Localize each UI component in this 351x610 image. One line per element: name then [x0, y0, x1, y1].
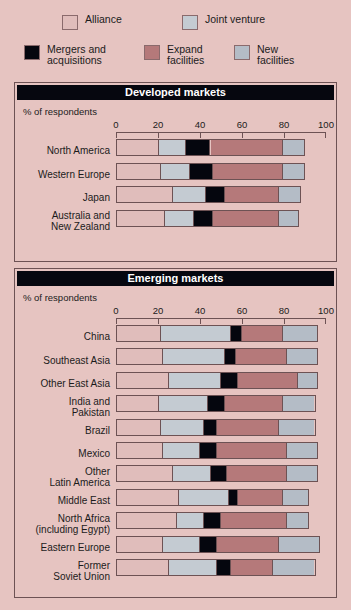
- bar-segment: [117, 349, 163, 364]
- bar-row: North Africa (including Egypt): [15, 512, 336, 535]
- bar-segment: [204, 420, 216, 435]
- bar-segment: [117, 490, 179, 505]
- panel-title-developed: Developed markets: [17, 85, 334, 100]
- bar-segment: [200, 443, 217, 458]
- stacked-bar: [116, 325, 318, 342]
- bar-row-label: Other Latin America: [49, 466, 110, 488]
- legend-item-new-facilities: New facilities: [234, 44, 294, 66]
- axis-tick-mark: [242, 132, 243, 138]
- stacked-bar: [116, 210, 299, 227]
- bar-segment: [117, 396, 159, 411]
- bar-row-label: Former Soviet Union: [53, 560, 110, 582]
- axis-line: [116, 132, 326, 133]
- legend-label-new-facilities: New facilities: [257, 44, 294, 66]
- bar-segment: [117, 140, 159, 155]
- legend-item-expand-facilities: Expand facilities: [144, 44, 234, 66]
- bar-segment: [211, 466, 228, 481]
- bar-segment: [287, 513, 308, 528]
- bar-segment: [117, 420, 161, 435]
- bar-segment: [208, 396, 225, 411]
- axis-tick-label: 100: [318, 119, 334, 130]
- bar-row-label: Middle East: [58, 495, 110, 506]
- bar-segment: [279, 537, 319, 552]
- bar-segment: [117, 187, 173, 202]
- bar-segment: [163, 349, 225, 364]
- bar-segment: [231, 560, 273, 575]
- bar-row: Other Latin America: [15, 465, 336, 488]
- bar-segment: [169, 560, 217, 575]
- bar-segment: [211, 140, 284, 155]
- axis-tick-label: 80: [279, 305, 290, 316]
- axis-tick-label: 60: [237, 119, 248, 130]
- axis-tick-mark: [116, 318, 117, 324]
- bar-segment: [236, 349, 288, 364]
- bar-row: Eastern Europe: [15, 536, 336, 559]
- panel-title-emerging: Emerging markets: [17, 271, 334, 286]
- axis-tick-mark: [200, 132, 201, 138]
- axis-caption-developed: % of respondents: [23, 106, 336, 117]
- bar-segment: [283, 396, 314, 411]
- bar-row-label: Japan: [83, 192, 110, 203]
- stacked-bar: [116, 395, 316, 412]
- axis-tick-mark: [200, 318, 201, 324]
- bar-segment: [298, 373, 317, 388]
- bar-segment: [117, 443, 163, 458]
- bar-segment: [179, 490, 229, 505]
- panel-developed-markets: Developed markets % of respondents 02040…: [14, 82, 337, 262]
- axis-tick-mark: [325, 318, 326, 324]
- bar-segment: [221, 513, 288, 528]
- bar-segment: [204, 513, 221, 528]
- bar-segment: [225, 396, 283, 411]
- stacked-bar: [116, 186, 301, 203]
- bar-row: India and Pakistan: [15, 395, 336, 418]
- stacked-bar: [116, 348, 318, 365]
- legend-row-2: Mergers and acquisitions Expand faciliti…: [14, 44, 337, 74]
- bar-segment: [221, 373, 238, 388]
- bar-segment: [163, 443, 200, 458]
- bar-row-label: Brazil: [85, 425, 110, 436]
- axis-tick-label: 0: [113, 305, 118, 316]
- stacked-bar: [116, 559, 316, 576]
- axis-tick-mark: [284, 318, 285, 324]
- bar-row: Western Europe: [15, 163, 336, 187]
- stacked-bar: [116, 465, 318, 482]
- bar-segment: [186, 140, 211, 155]
- plot-developed: 020406080100 North AmericaWestern Europe…: [15, 119, 336, 233]
- bar-row-label: India and Pakistan: [69, 396, 110, 418]
- bar-row: Southeast Asia: [15, 348, 336, 371]
- stacked-bar: [116, 512, 309, 529]
- axis-tick-label: 20: [153, 305, 164, 316]
- legend-label-expand-facilities: Expand facilities: [167, 44, 204, 66]
- bar-segment: [159, 140, 186, 155]
- plot-emerging: 020406080100 ChinaSoutheast AsiaOther Ea…: [15, 305, 336, 582]
- bar-segment: [229, 490, 237, 505]
- legend-label-mergers-acquisitions: Mergers and acquisitions: [47, 44, 106, 66]
- axis-rule-emerging: [15, 318, 336, 325]
- bar-segment: [242, 326, 284, 341]
- axis-tick-label: 40: [195, 305, 206, 316]
- stacked-bar: [116, 163, 305, 180]
- axis-tick-mark: [242, 318, 243, 324]
- axis-tick-label: 0: [113, 119, 118, 130]
- bar-segment: [200, 537, 217, 552]
- bar-segment: [190, 164, 213, 179]
- axis-tick-label: 40: [195, 119, 206, 130]
- bar-segment: [287, 349, 316, 364]
- bar-segment: [217, 443, 288, 458]
- bar-segment: [279, 211, 298, 226]
- legend-swatch-new-facilities: [234, 45, 250, 60]
- bar-segment: [231, 326, 241, 341]
- bar-row: Mexico: [15, 442, 336, 465]
- axis-tick-label: 20: [153, 119, 164, 130]
- legend-label-joint-venture: Joint venture: [205, 14, 265, 25]
- bar-row: Middle East: [15, 489, 336, 512]
- axis-tick-mark: [158, 318, 159, 324]
- bar-row-label: North America: [47, 145, 110, 156]
- bar-segment: [238, 490, 284, 505]
- axis-tick-mark: [325, 132, 326, 138]
- bar-segment: [163, 537, 200, 552]
- bar-segment: [287, 466, 316, 481]
- stacked-bar: [116, 139, 305, 156]
- bar-segment: [159, 396, 209, 411]
- bar-row-label: Mexico: [78, 448, 110, 459]
